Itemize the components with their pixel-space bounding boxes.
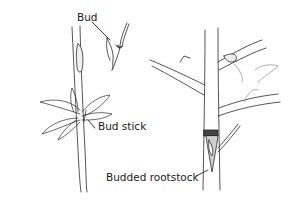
bud-shield — [107, 23, 129, 70]
label-budded-rootstock: Budded rootstock — [106, 172, 199, 183]
rootstock-trunk — [150, 28, 280, 190]
label-bud-stick: Bud stick — [98, 121, 146, 132]
budding-diagram: Bud Bud stick Budded rootstock — [0, 0, 292, 201]
label-bud: Bud — [77, 12, 98, 23]
